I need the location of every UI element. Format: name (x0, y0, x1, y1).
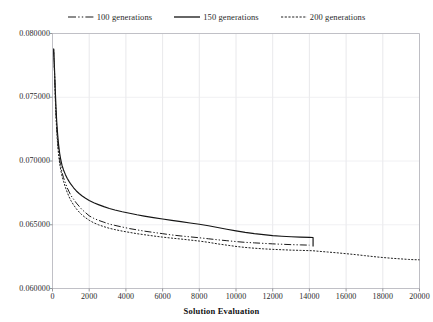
series-line-200-generations (54, 49, 420, 260)
x-tick-label: 20000 (398, 293, 433, 301)
x-axis-title-text: Solution Evaluation (184, 306, 260, 316)
axis-ticks (50, 34, 420, 292)
plot-area (0, 0, 433, 322)
x-axis-title: Solution Evaluation (0, 306, 433, 316)
x-axis-tick-labels: 0200040006000800010000120001400016000180… (0, 293, 433, 305)
gridlines (53, 34, 420, 289)
series-line-150-generations (54, 49, 313, 247)
data-series-group (54, 49, 420, 260)
chart-figure: 100 generations 150 generations 200 gene… (0, 0, 433, 322)
series-line-100-generations (54, 49, 310, 245)
